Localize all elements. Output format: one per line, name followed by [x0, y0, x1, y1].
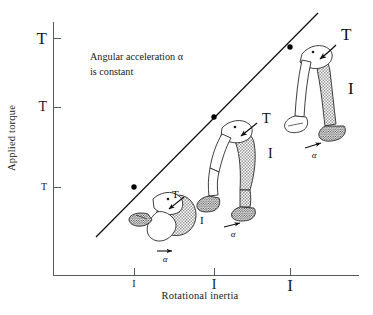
x-axis-tick-label-3: I	[287, 277, 293, 294]
extended-torque-arrow	[320, 45, 336, 59]
x-axis-tick-2	[214, 268, 215, 275]
x-axis-title: Rotational inertia	[162, 290, 239, 301]
extended-joint-dot	[312, 51, 315, 54]
extended-rear-shoe	[319, 126, 346, 141]
data-point-1	[131, 184, 136, 189]
bent-front-shin	[208, 168, 219, 196]
bent-rear-shin	[240, 190, 251, 207]
bent-inertia-label: I	[268, 147, 273, 161]
plot-area	[0, 0, 373, 315]
x-axis-tick-label-1: I	[132, 279, 135, 289]
extended-inertia-label: I	[348, 80, 354, 97]
illustration-tucked-leg	[129, 192, 196, 251]
tucked-joint-dot	[167, 198, 170, 201]
y-axis-tick-label-3: T	[37, 30, 47, 47]
tucked-thigh	[156, 195, 196, 235]
y-axis-tick-label-2: T	[38, 100, 47, 114]
tucked-shoe	[129, 213, 152, 226]
figure-canvas: T T T I I I Applied torque Rotational in…	[0, 0, 373, 315]
extended-hip	[300, 46, 332, 69]
tucked-shin	[147, 212, 176, 241]
data-point-2	[211, 114, 216, 119]
bent-rear-shoe	[231, 207, 255, 221]
data-point-3	[287, 44, 292, 49]
extended-torque-label: T	[341, 26, 351, 43]
extended-front-leg	[295, 60, 311, 117]
bent-alpha-arrow	[224, 223, 240, 227]
y-axis-line	[53, 22, 54, 276]
bent-torque-label: T	[262, 112, 271, 126]
y-axis-tick-2	[54, 107, 61, 108]
bent-front-shoe	[197, 196, 220, 212]
bent-hip	[221, 121, 252, 143]
extended-alpha-label: α	[312, 150, 317, 160]
x-axis-tick-3	[290, 268, 291, 275]
extended-alpha-arrow	[305, 143, 321, 148]
y-axis-title: Applied torque	[6, 105, 17, 171]
tucked-torque-label: T	[172, 189, 179, 200]
x-axis-tick-1	[134, 268, 135, 275]
y-axis-tick-1	[54, 187, 61, 188]
extended-front-shoe	[285, 116, 308, 133]
tucked-inertia-label: I	[200, 215, 204, 226]
y-axis-tick-label-1: T	[41, 182, 47, 192]
bent-rear-thigh	[233, 130, 255, 190]
bent-joint-dot	[234, 126, 237, 129]
trend-line	[96, 13, 318, 237]
bent-alpha-label: α	[231, 229, 236, 239]
extended-rear-leg	[313, 56, 336, 126]
tucked-alpha-label: α	[163, 254, 168, 264]
x-axis-line	[53, 275, 359, 276]
bent-front-thigh	[210, 134, 231, 172]
illustration-extended-leg	[285, 45, 346, 148]
y-axis-tick-3	[54, 38, 61, 39]
bent-torque-arrow	[241, 123, 257, 136]
illustration-bent-leg	[197, 121, 257, 227]
annotation-text: Angular acceleration α is constant	[90, 50, 183, 80]
